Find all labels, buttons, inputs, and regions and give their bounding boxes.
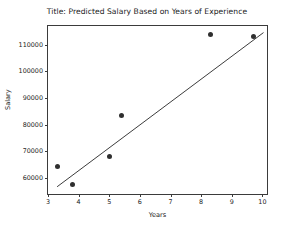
x-axis-tick-label: 6: [138, 198, 142, 206]
x-axis-tick-label: 4: [77, 198, 81, 206]
plot-area: 3456789106000070000800009000010000011000…: [47, 25, 268, 195]
x-axis-tick: [201, 194, 202, 197]
x-axis-tick: [109, 194, 110, 197]
y-axis-tick-label: 100000: [19, 67, 43, 75]
data-point: [107, 154, 112, 159]
y-axis-tick-label: 80000: [23, 121, 43, 129]
x-axis-tick: [48, 194, 49, 197]
x-axis-tick-label: 7: [168, 198, 172, 206]
y-axis-tick: [45, 98, 48, 99]
x-axis-label: Years: [47, 211, 268, 219]
x-axis-tick-label: 10: [258, 198, 266, 206]
regression-polyline: [57, 33, 263, 187]
y-axis-tick-label: 90000: [23, 94, 43, 102]
x-axis-tick-label: 3: [46, 198, 50, 206]
x-axis-tick: [232, 194, 233, 197]
y-axis-tick: [45, 151, 48, 152]
x-axis-tick: [262, 194, 263, 197]
x-axis-tick: [171, 194, 172, 197]
x-axis-tick: [79, 194, 80, 197]
y-axis-tick-label: 70000: [23, 147, 43, 155]
y-axis-tick: [45, 71, 48, 72]
page-title: Title: Predicted Salary Based on Years o…: [0, 7, 294, 16]
y-axis-tick: [45, 45, 48, 46]
data-point: [251, 34, 256, 39]
y-axis-tick: [45, 125, 48, 126]
x-axis-tick-label: 8: [199, 198, 203, 206]
regression-line: [48, 26, 267, 194]
plot-inner: [48, 26, 267, 194]
matplotlib-figure: Title: Predicted Salary Based on Years o…: [0, 0, 294, 229]
y-axis-tick: [45, 178, 48, 179]
y-axis-tick-label: 110000: [19, 41, 43, 49]
y-axis-label: Salary: [4, 89, 12, 110]
x-axis-tick-label: 9: [230, 198, 234, 206]
y-axis-tick-label: 60000: [23, 174, 43, 182]
data-point: [208, 32, 213, 37]
x-axis-tick-label: 5: [107, 198, 111, 206]
data-point: [55, 164, 60, 169]
x-axis-tick: [140, 194, 141, 197]
